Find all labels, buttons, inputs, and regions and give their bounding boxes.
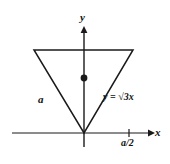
line-equation-label: y = √3x (103, 92, 134, 102)
x-axis-label: x (155, 127, 161, 138)
coordinate-diagram-canvas (0, 0, 170, 164)
x-axis-arrowhead (148, 129, 155, 136)
geometry-figure: y x a y = √3x a/2 (0, 0, 170, 164)
y-axis-arrowhead (81, 26, 88, 33)
y-axis-label: y (80, 12, 85, 23)
centroid-dot (81, 75, 88, 82)
triangle-side-length-label: a (38, 94, 44, 105)
x-tick-label-a-over-2: a/2 (121, 138, 134, 148)
